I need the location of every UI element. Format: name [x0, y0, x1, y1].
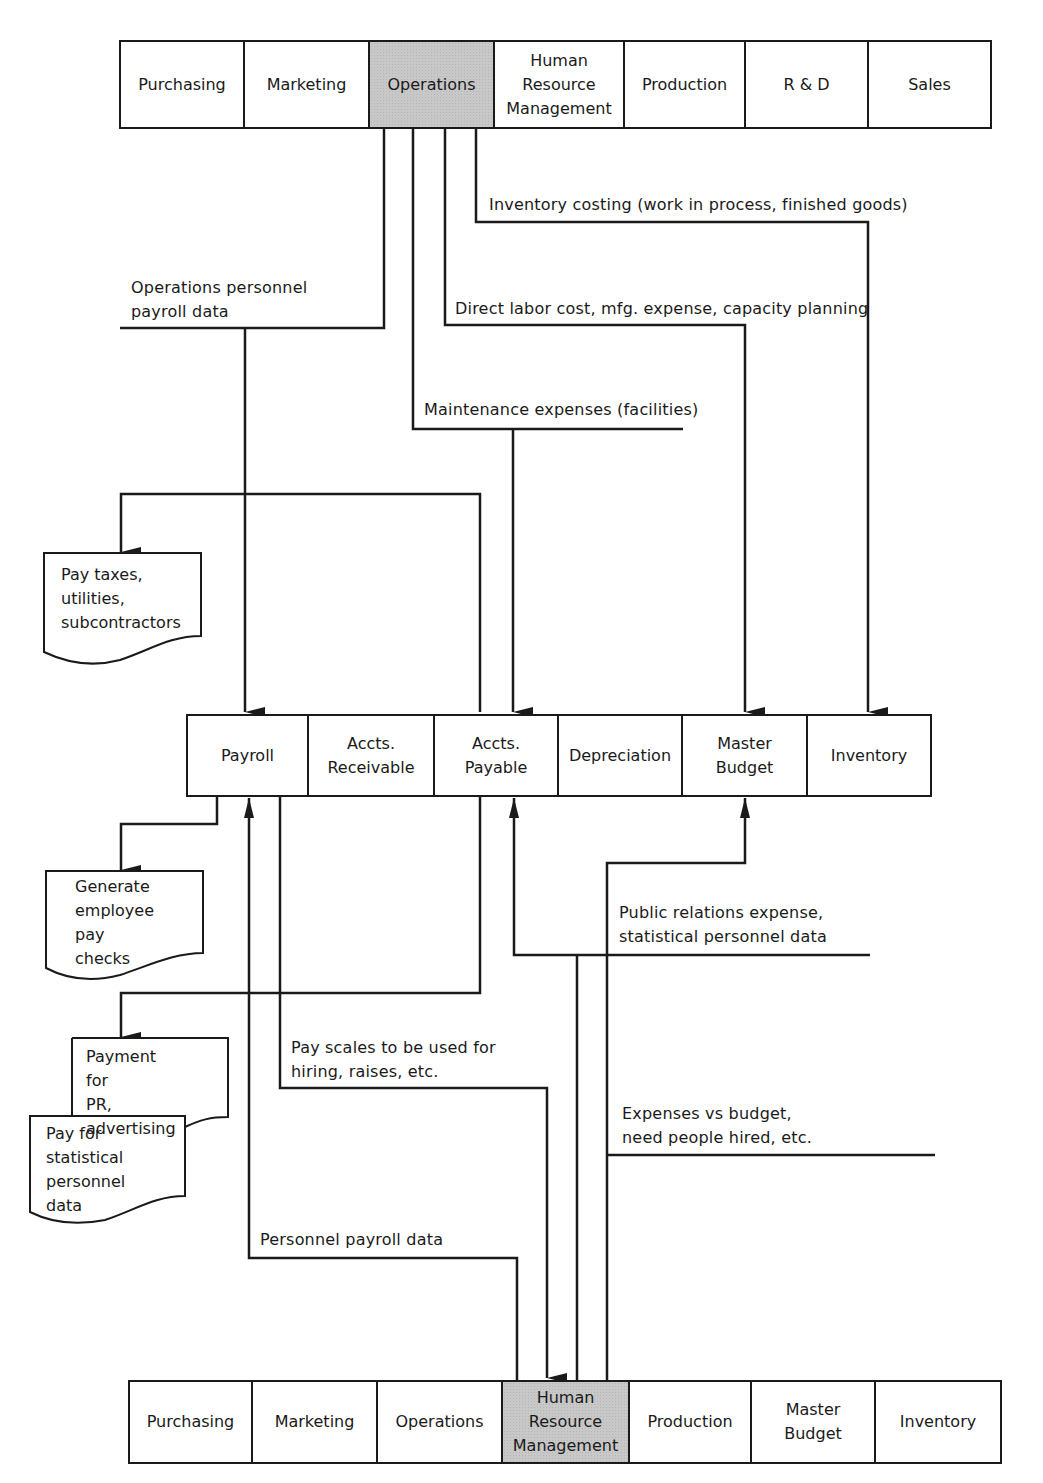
mid-cell-accts-payable[interactable]: Accts. Payable [435, 716, 559, 795]
accounting-functions-row: Payroll Accts. Receivable Accts. Payable… [186, 714, 932, 797]
mid-cell-payroll[interactable]: Payroll [188, 716, 309, 795]
top-cell-production[interactable]: Production [625, 42, 746, 127]
top-cell-r-and-d[interactable]: R & D [746, 42, 869, 127]
top-cell-purchasing[interactable]: Purchasing [121, 42, 245, 127]
mid-cell-depreciation[interactable]: Depreciation [559, 716, 683, 795]
bottom-cell-purchasing[interactable]: Purchasing [130, 1382, 253, 1462]
label-direct-labor: Direct labor cost, mfg. expense, capacit… [455, 297, 868, 321]
label-inventory-costing: Inventory costing (work in process, fini… [489, 193, 908, 217]
bottom-cell-production[interactable]: Production [630, 1382, 752, 1462]
bottom-cell-operations[interactable]: Operations [378, 1382, 503, 1462]
top-cell-operations-highlighted[interactable]: Operations [370, 42, 495, 127]
bottom-cell-marketing[interactable]: Marketing [253, 1382, 378, 1462]
top-functional-areas-row: Purchasing Marketing Operations Human Re… [119, 40, 992, 129]
mid-cell-accts-receivable[interactable]: Accts. Receivable [309, 716, 435, 795]
flow-expenses-budget [607, 798, 745, 1380]
label-expenses-vs-budget: Expenses vs budget, need people hired, e… [622, 1102, 812, 1150]
label-maintenance: Maintenance expenses (facilities) [424, 398, 698, 422]
label-ops-personnel-payroll: Operations personnel payroll data [131, 276, 307, 324]
label-public-relations: Public relations expense, statistical pe… [619, 901, 827, 949]
mid-cell-master-budget[interactable]: Master Budget [683, 716, 808, 795]
bottom-cell-inventory[interactable]: Inventory [876, 1382, 1000, 1462]
label-personnel-payroll: Personnel payroll data [260, 1228, 443, 1252]
bottom-cell-human-resource-management-highlighted[interactable]: Human Resource Management [503, 1382, 630, 1462]
flow-gen-checks [121, 796, 217, 870]
top-cell-sales[interactable]: Sales [869, 42, 990, 127]
bottom-cell-master-budget[interactable]: Master Budget [752, 1382, 876, 1462]
flow-pay-scales [280, 796, 547, 1378]
mid-cell-inventory[interactable]: Inventory [808, 716, 930, 795]
document-pay-taxes-text: Pay taxes, utilities, subcontractors [61, 563, 181, 635]
top-cell-marketing[interactable]: Marketing [245, 42, 370, 127]
document-generate-checks-text: Generate employee pay checks [75, 875, 154, 971]
label-pay-scales: Pay scales to be used for hiring, raises… [291, 1036, 496, 1084]
flow-public-relations [514, 798, 870, 1380]
document-pay-statistical-text: Pay for statistical personnel data [46, 1122, 125, 1218]
bottom-functional-areas-row: Purchasing Marketing Operations Human Re… [128, 1380, 1002, 1464]
top-cell-human-resource-management[interactable]: Human Resource Management [495, 42, 625, 127]
